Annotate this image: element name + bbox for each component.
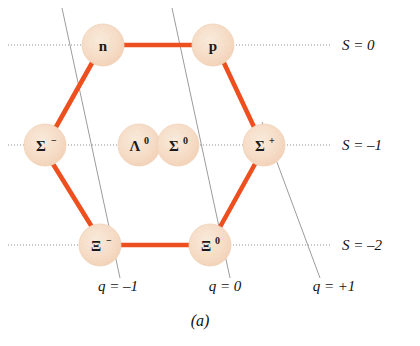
- figure-caption: (a): [191, 312, 210, 330]
- axis-label-q-0: q = 0: [209, 278, 242, 294]
- bond-p-sigma-plus: [224, 63, 254, 127]
- node-label-xi-zero: Ξ: [201, 238, 211, 254]
- node-superscript-sigma-minus: −: [51, 135, 57, 146]
- baryon-octet-figure: n p Σ − Λ 0 Σ 0 Σ + Ξ − Ξ 0 S = 0 S: [0, 0, 420, 346]
- node-label-sigma-plus: Σ: [255, 138, 265, 154]
- axis-label-s-minus-2: S = –2: [342, 237, 383, 253]
- axis-label-q-minus-1: q = –1: [98, 278, 138, 294]
- node-superscript-xi-minus: −: [106, 235, 112, 246]
- node-superscript-sigma-zero: 0: [183, 135, 188, 146]
- node-label-p: p: [209, 38, 217, 54]
- axis-label-s-0: S = 0: [342, 37, 375, 53]
- axis-label-q-plus-1: q = +1: [313, 278, 356, 294]
- node-superscript-lambda-zero: 0: [144, 135, 149, 146]
- particle-node-group: [24, 24, 285, 266]
- node-label-n: n: [99, 38, 108, 54]
- node-superscript-sigma-plus: +: [269, 135, 275, 146]
- node-label-lambda-zero: Λ: [130, 138, 141, 154]
- node-label-sigma-zero: Σ: [169, 138, 179, 154]
- bond-n-sigma-minus: [56, 63, 92, 127]
- bond-sigma-minus-xi-minus: [53, 164, 92, 227]
- axis-label-s-minus-1: S = –1: [342, 137, 382, 153]
- node-label-sigma-minus: Σ: [36, 138, 46, 154]
- node-superscript-xi-zero: 0: [215, 235, 220, 246]
- baryon-octet-diagram: n p Σ − Λ 0 Σ 0 Σ + Ξ − Ξ 0 S = 0 S: [0, 0, 420, 346]
- node-label-xi-minus: Ξ: [91, 238, 101, 254]
- bond-sigma-plus-xi-zero: [220, 164, 255, 227]
